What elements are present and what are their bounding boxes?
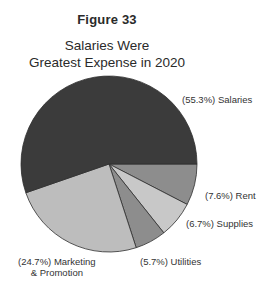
slice-label-rent: (7.6%) Rent xyxy=(205,190,256,201)
pie-slices xyxy=(21,76,197,252)
slice-label-marketing-line-1: (24.7%) Marketing xyxy=(18,256,96,267)
slice-label-supplies: (6.7%) Supplies xyxy=(186,218,253,229)
slice-label-marketing: (24.7%) Marketing & Promotion xyxy=(18,256,96,278)
slice-label-utilities: (5.7%) Utilities xyxy=(140,256,201,267)
pie-chart xyxy=(0,0,267,286)
slice-label-marketing-line-2: & Promotion xyxy=(18,267,96,278)
slice-label-salaries: (55.3%) Salaries xyxy=(182,94,252,105)
